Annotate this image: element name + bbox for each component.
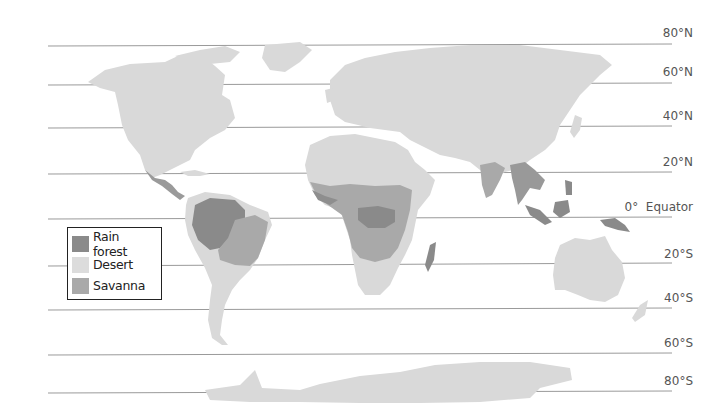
legend-item-rain-forest: Rain forest bbox=[72, 233, 157, 254]
philippines bbox=[565, 180, 572, 195]
borneo bbox=[553, 200, 570, 218]
legend-label: Savanna bbox=[93, 278, 145, 293]
indonesia bbox=[525, 205, 552, 225]
north-america bbox=[88, 55, 235, 178]
lat-label-20n: 20°N bbox=[663, 156, 693, 169]
legend-item-savanna: Savanna bbox=[72, 275, 157, 296]
southeast-asia bbox=[510, 162, 545, 205]
world-map bbox=[0, 0, 705, 417]
lat-label-equator: 0° Equator bbox=[625, 201, 693, 214]
lat-line-80n bbox=[48, 44, 672, 46]
madagascar bbox=[425, 242, 436, 272]
lat-label-60s: 60°S bbox=[664, 337, 693, 350]
lat-label-20s: 20°S bbox=[664, 248, 693, 261]
land-masses bbox=[88, 42, 648, 403]
legend-label: Rain forest bbox=[93, 229, 157, 259]
rain-forest-swatch bbox=[72, 236, 89, 252]
lat-label-60n: 60°N bbox=[663, 66, 693, 79]
lat-label-40s: 40°S bbox=[664, 292, 693, 305]
greenland bbox=[262, 42, 312, 72]
savanna-swatch bbox=[72, 278, 89, 294]
caribbean bbox=[180, 170, 210, 176]
japan bbox=[570, 115, 582, 138]
legend-label: Desert bbox=[93, 257, 133, 272]
australia bbox=[553, 236, 625, 302]
new-zealand bbox=[632, 300, 648, 322]
india bbox=[480, 162, 505, 198]
map-legend: Rain forest Desert Savanna bbox=[67, 227, 162, 300]
lat-label-40n: 40°N bbox=[663, 110, 693, 123]
lat-label-80s: 80°S bbox=[664, 375, 693, 388]
antarctica bbox=[205, 362, 572, 403]
lat-line-40s bbox=[48, 308, 672, 310]
new-guinea bbox=[600, 218, 630, 232]
desert-swatch bbox=[72, 257, 89, 273]
lat-line-60s bbox=[48, 353, 672, 355]
lat-label-80n: 80°N bbox=[663, 27, 693, 40]
